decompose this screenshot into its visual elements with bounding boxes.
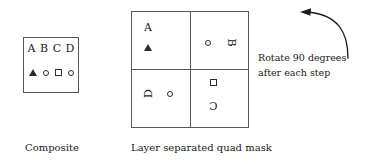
composite-letter-row: A B C D <box>24 43 78 54</box>
circle-icon <box>205 40 211 46</box>
composite-letter-c: C <box>53 43 61 54</box>
rotation-annotation-line1: Rotate 90 degrees <box>258 51 374 66</box>
quad-letter-c: C <box>209 100 217 111</box>
square-icon <box>210 79 217 86</box>
quad-letter-b: B <box>226 38 237 46</box>
diagram-canvas: A B C D Composite A B D <box>0 0 377 167</box>
rotation-annotation: Rotate 90 degrees after each step <box>258 51 374 80</box>
circle-icon <box>68 70 74 76</box>
triangle-icon <box>144 44 152 51</box>
quad-mask-box: A B D C <box>131 11 249 128</box>
quad-top-right: B <box>191 12 249 69</box>
quad-top-left: A <box>132 12 190 69</box>
triangle-icon <box>29 69 37 76</box>
quad-bottom-left: D <box>132 70 190 127</box>
composite-letter-a: A <box>28 43 36 54</box>
quad-letter-a: A <box>144 22 152 33</box>
composite-mask-box: A B C D <box>23 37 79 93</box>
composite-caption: Composite <box>25 143 79 153</box>
composite-shape-row <box>24 69 78 76</box>
composite-letter-d: D <box>66 43 75 54</box>
circle-icon <box>43 70 49 76</box>
quad-mask-caption: Layer separated quad mask <box>131 143 272 153</box>
circle-icon <box>167 91 173 97</box>
composite-letter-b: B <box>40 43 48 54</box>
quad-bottom-right: C <box>191 70 249 127</box>
quad-letter-d: D <box>143 89 154 98</box>
rotation-annotation-line2: after each step <box>258 66 374 81</box>
square-icon <box>55 69 62 76</box>
